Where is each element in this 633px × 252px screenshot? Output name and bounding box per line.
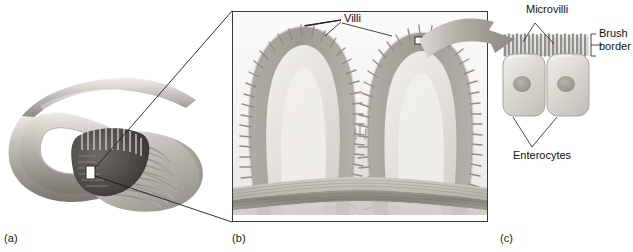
- label-villi: Villi: [344, 12, 361, 25]
- panel-a-gross-intestine: [0, 70, 230, 220]
- label-brush-border: Brush border: [599, 27, 633, 53]
- enterocytes-leader-lines: [513, 117, 557, 147]
- panel-b-artwork: [232, 11, 488, 222]
- figure-small-intestine-mucosa: Villi Microvilli Brush border Enterocyte…: [0, 0, 633, 252]
- nucleus-left: [513, 76, 531, 92]
- caption-panel-a: (a): [4, 232, 18, 245]
- panel-b-villi-cross-section: [232, 11, 488, 222]
- panel-a-callout-box: [86, 166, 95, 179]
- label-brush-border-line1: Brush: [599, 27, 628, 39]
- panel-b-callout-box: [415, 37, 422, 44]
- caption-panel-c: (c): [500, 232, 513, 245]
- nucleus-right: [557, 76, 575, 92]
- microvilli-fringe: [503, 34, 589, 56]
- panel-b-content: [226, 11, 494, 223]
- label-enterocytes: Enterocytes: [513, 149, 571, 162]
- enterocyte-cells: [503, 54, 589, 116]
- panel-a-artwork: [0, 70, 230, 220]
- label-brush-border-line2: border: [599, 40, 631, 52]
- label-microvilli: Microvilli: [526, 3, 568, 16]
- caption-panel-b: (b): [232, 232, 246, 245]
